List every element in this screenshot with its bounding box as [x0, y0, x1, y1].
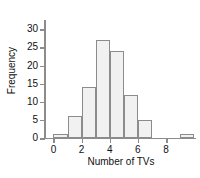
- histogram-bar: [82, 87, 96, 138]
- y-tick-mark: [40, 47, 45, 49]
- y-tick-label: 15: [27, 79, 38, 89]
- y-tick-mark: [40, 102, 45, 104]
- y-tick-label: 0: [32, 133, 38, 143]
- y-tick-label: 25: [27, 42, 38, 52]
- x-tick-mark: [53, 138, 55, 143]
- x-tick-label: 2: [79, 145, 85, 155]
- histogram-bar: [124, 95, 138, 139]
- histogram-bar: [138, 120, 152, 138]
- y-axis-title-text: Frequency: [7, 46, 18, 93]
- histogram-chart: Frequency 051015202530 02468 Number of T…: [0, 0, 200, 178]
- y-tick-label: 5: [32, 115, 38, 125]
- y-tick-mark: [40, 29, 45, 31]
- plot-area: 051015202530: [45, 22, 197, 138]
- histogram-bar: [53, 134, 67, 138]
- y-tick-label: 30: [27, 24, 38, 34]
- x-axis-title: Number of TVs: [45, 156, 197, 167]
- y-tick-label: 10: [27, 97, 38, 107]
- x-tick-label: 6: [135, 145, 141, 155]
- y-axis-title: Frequency: [4, 0, 20, 140]
- y-tick-label: 20: [27, 61, 38, 71]
- x-tick-mark: [166, 138, 168, 143]
- histogram-bar: [68, 116, 82, 138]
- histogram-bar: [110, 51, 124, 138]
- x-tick-label: 0: [51, 145, 57, 155]
- x-tick-mark: [82, 138, 84, 143]
- x-tick-mark: [110, 138, 112, 143]
- x-tick-mark: [138, 138, 140, 143]
- y-tick-mark: [40, 138, 45, 140]
- y-tick-mark: [40, 120, 45, 122]
- x-tick-label: 4: [107, 145, 113, 155]
- histogram-bar: [96, 40, 110, 138]
- y-tick-mark: [40, 84, 45, 86]
- y-tick-mark: [40, 66, 45, 68]
- x-tick-label: 8: [163, 145, 169, 155]
- histogram-bar: [180, 134, 194, 138]
